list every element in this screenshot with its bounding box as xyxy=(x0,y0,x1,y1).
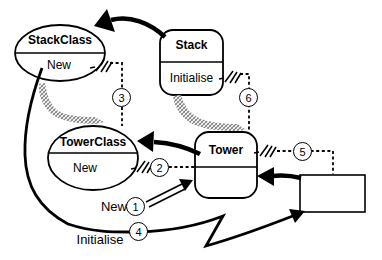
object-node xyxy=(300,175,365,212)
stack-title: Stack xyxy=(160,39,223,51)
stackclass-operation: New xyxy=(16,59,102,71)
label-initialise: Initialise xyxy=(60,233,140,246)
new-arrow xyxy=(146,179,193,207)
arrow-stack-to-stackclass xyxy=(94,9,165,37)
stack-operation: Initialise xyxy=(160,72,223,84)
stackclass-title: StackClass xyxy=(15,34,105,46)
towerclass-operation: New xyxy=(45,162,125,174)
towerclass-title: TowerClass xyxy=(48,136,138,148)
marker-4: 4 xyxy=(129,222,148,241)
marker-3: 3 xyxy=(112,88,131,107)
marker-5: 5 xyxy=(293,142,312,161)
hatched-arrow-stackclass-to-towerclass xyxy=(39,83,104,124)
tower-title: Tower xyxy=(195,144,257,156)
arrow-object-to-tower xyxy=(257,167,301,186)
hatched-arrow-stack-to-tower xyxy=(173,95,246,131)
tower-node xyxy=(195,132,257,198)
label-new: New xyxy=(85,200,127,213)
marker-1: 1 xyxy=(126,197,145,216)
arrow-tower-to-towerclass xyxy=(137,131,200,154)
marker-6: 6 xyxy=(239,88,258,107)
marker-2: 2 xyxy=(150,158,169,177)
diagram-canvas: StackClass New Stack Initialise TowerCla… xyxy=(0,0,382,260)
